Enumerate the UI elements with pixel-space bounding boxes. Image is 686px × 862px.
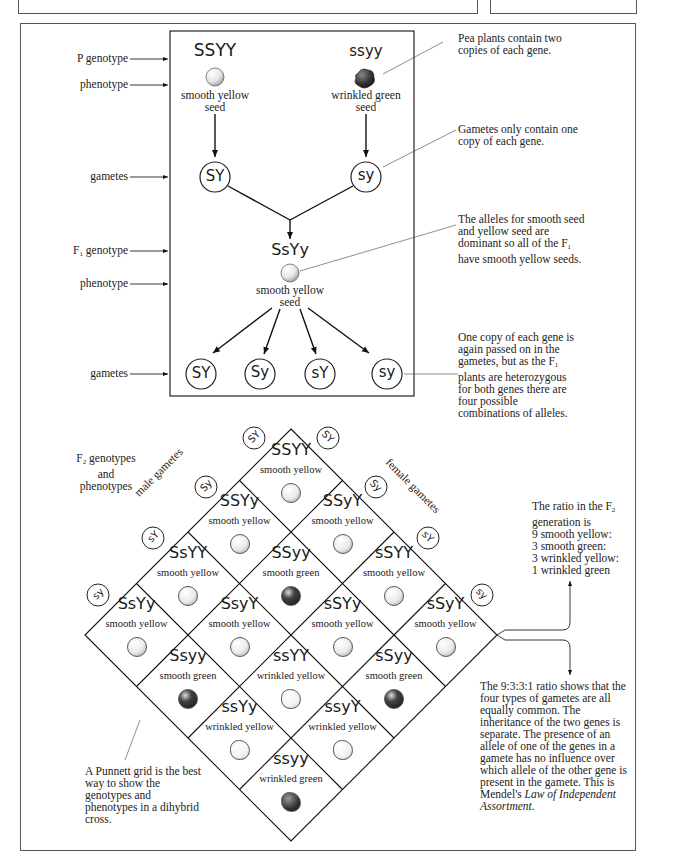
cell-genotype: SsYy bbox=[87, 595, 187, 613]
cell-genotype: SsyY bbox=[190, 595, 290, 613]
smooth-yellow-seed-icon bbox=[206, 68, 224, 86]
parent-right-genotype: ssyy bbox=[336, 42, 396, 60]
cell-genotype: ssyY bbox=[293, 698, 393, 716]
note-independent-assortment: The 9:3:3:1 ratio shows that the four ty… bbox=[480, 680, 630, 812]
cell-phenotype: smooth green bbox=[241, 566, 341, 580]
note-ratio: The ratio in the F2 generation is9 smoot… bbox=[532, 500, 632, 576]
gametes-label-1: gametes bbox=[46, 170, 128, 182]
cell-phenotype: wrinkled yellow bbox=[293, 720, 393, 734]
cell-genotype: sSyy bbox=[344, 647, 444, 665]
cell-phenotype: smooth yellow bbox=[293, 514, 393, 528]
cell-phenotype: smooth yellow bbox=[344, 566, 444, 580]
cell-phenotype: smooth green bbox=[138, 669, 238, 683]
cell-phenotype: smooth yellow bbox=[87, 617, 187, 631]
wrinkled-green-seed-icon bbox=[355, 69, 375, 88]
gametes-label-2: gametes bbox=[46, 367, 128, 379]
f1-genotype-label: F1 genotype bbox=[46, 244, 128, 260]
cell-phenotype: wrinkled green bbox=[241, 772, 341, 786]
cell-genotype: SSyY bbox=[293, 492, 393, 510]
cell-phenotype: smooth yellow bbox=[190, 617, 290, 631]
f1-gamete-3: sY bbox=[305, 364, 335, 382]
gamete-sy-left: SY bbox=[200, 167, 230, 185]
phenotype-label-2: phenotype bbox=[46, 277, 128, 289]
gamete-sy-right: sy bbox=[351, 166, 381, 184]
cell-genotype: sSYY bbox=[344, 544, 444, 562]
p-genotype-label: P genotype bbox=[46, 52, 128, 64]
seed-icon bbox=[281, 792, 301, 812]
parent-right-phenotype: wrinkled greenseed bbox=[316, 89, 416, 113]
cell-phenotype: wrinkled yellow bbox=[190, 720, 290, 734]
note-dominant: The alleles for smooth seed and yellow s… bbox=[458, 213, 593, 265]
cell-genotype: SsYY bbox=[138, 544, 238, 562]
f1-gamete-2: Sy bbox=[245, 363, 275, 381]
note-again: One copy of each gene is again passed on… bbox=[458, 331, 580, 419]
cell-genotype: ssYY bbox=[241, 647, 341, 665]
cell-phenotype: smooth yellow bbox=[138, 566, 238, 580]
f1-genotype: SsYy bbox=[255, 240, 325, 259]
f1-gamete-1: SY bbox=[186, 364, 216, 382]
cell-phenotype: smooth yellow bbox=[293, 617, 393, 631]
cell-phenotype: smooth yellow bbox=[396, 617, 496, 631]
note-punnett: A Punnett grid is the best way to show t… bbox=[85, 765, 205, 825]
cell-genotype: ssyy bbox=[241, 750, 341, 768]
cell-genotype: SSYy bbox=[190, 492, 290, 510]
cell-genotype: sSYy bbox=[293, 595, 393, 613]
cell-genotype: SSYY bbox=[241, 441, 341, 459]
f1-seed-icon bbox=[281, 264, 299, 282]
cell-phenotype: smooth green bbox=[344, 669, 444, 683]
cross-box bbox=[170, 31, 414, 396]
cell-phenotype: smooth yellow bbox=[190, 514, 290, 528]
f1-gamete-4: sy bbox=[372, 363, 402, 381]
cell-phenotype: wrinkled yellow bbox=[241, 669, 341, 683]
cell-genotype: Ssyy bbox=[138, 647, 238, 665]
cell-genotype: ssYy bbox=[190, 698, 290, 716]
cell-genotype: SSyy bbox=[241, 544, 341, 562]
note-one-copy: Gametes only contain one copy of each ge… bbox=[458, 123, 588, 147]
f1-phenotype: smooth yellowseed bbox=[245, 284, 335, 308]
note-two-copies: Pea plants contain two copies of each ge… bbox=[458, 32, 588, 56]
parent-left-genotype: SSYY bbox=[185, 40, 245, 60]
cell-phenotype: smooth yellow bbox=[241, 463, 341, 477]
parent-left-phenotype: smooth yellowseed bbox=[170, 89, 260, 113]
f2-header: F2 genotypesandphenotypes bbox=[70, 452, 142, 492]
punnett-cell: ssyywrinkled green bbox=[241, 750, 341, 836]
phenotype-label-1: phenotype bbox=[46, 78, 128, 90]
cell-genotype: sSyY bbox=[396, 595, 496, 613]
